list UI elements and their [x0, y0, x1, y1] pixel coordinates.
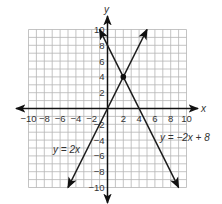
y-tick-label: 10 — [94, 24, 105, 35]
x-tick-label: 8 — [168, 113, 173, 124]
x-tick-label: 6 — [152, 113, 157, 124]
y-tick-label: 4 — [99, 71, 104, 82]
y-tick-label: 8 — [99, 40, 104, 51]
x-axis-label: x — [200, 103, 207, 114]
series-label-y-equals-neg2x-plus-8: y = −2x + 8 — [159, 132, 210, 143]
y-tick-label: −4 — [94, 135, 105, 146]
x-tick-label: −6 — [55, 113, 66, 124]
x-tick-label: −4 — [70, 113, 81, 124]
coordinate-plane: −10−8−6−4−2246810−10−8−6−4−2246810 x y y… — [0, 0, 222, 204]
x-tick-label: 4 — [136, 113, 141, 124]
y-tick-label: −10 — [88, 182, 104, 193]
y-tick-label: 2 — [99, 87, 104, 98]
x-tick-label: 2 — [121, 113, 126, 124]
y-axis-label: y — [103, 4, 110, 15]
series-label-y-equals-2x: y = 2x — [52, 144, 81, 155]
intersection-point — [121, 74, 127, 80]
y-tick-label: −8 — [94, 166, 105, 177]
y-tick-label: −6 — [94, 150, 105, 161]
x-tick-label: −8 — [39, 113, 50, 124]
x-tick-label: 10 — [181, 113, 192, 124]
x-tick-label: −10 — [20, 113, 36, 124]
y-tick-label: 6 — [99, 56, 104, 67]
